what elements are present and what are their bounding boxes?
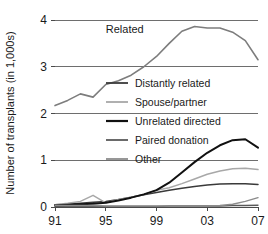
x-tick-label-95: 95 (99, 214, 113, 228)
y-tick-label-0: 0 (40, 200, 47, 214)
x-axis (55, 207, 258, 211)
x-tick-labels: 9195990307 (48, 214, 265, 228)
legend-label-unrelated-directed: Unrelated directed (135, 115, 221, 127)
y-tick-label-2: 2 (40, 107, 47, 121)
x-tick-label-03: 03 (201, 214, 215, 228)
y-tick-label-1: 1 (40, 153, 47, 167)
series-line-unrelated-directed (55, 139, 258, 205)
legend-label-spouse-partner: Spouse/partner (135, 96, 207, 108)
legend-label-paired-donation: Paired donation (135, 134, 209, 146)
legend-label-distantly-related: Distantly related (135, 77, 210, 89)
legend-label-other: Other (135, 153, 162, 165)
series-line-distantly-related (55, 184, 258, 205)
x-tick-label-91: 91 (48, 214, 62, 228)
y-tick-labels: 01234 (40, 13, 47, 214)
chart-figure: 01234 9195990307 Related Distantly relat… (0, 0, 268, 234)
line-chart: 01234 9195990307 Related Distantly relat… (0, 0, 268, 234)
series-line-related (55, 27, 258, 106)
x-tick-label-99: 99 (150, 214, 164, 228)
chart-annotations: Related (106, 23, 144, 35)
annotation-related: Related (106, 23, 144, 35)
y-axis-label: Number of transplants (in 1,000s) (4, 31, 16, 194)
y-tick-label-3: 3 (40, 60, 47, 74)
chart-legend: Distantly relatedSpouse/partnerUnrelated… (106, 77, 221, 165)
x-tick-label-07: 07 (251, 214, 265, 228)
y-tick-marks (51, 20, 55, 207)
y-tick-label-4: 4 (40, 13, 47, 27)
series-line-spouse-partner (55, 168, 258, 204)
